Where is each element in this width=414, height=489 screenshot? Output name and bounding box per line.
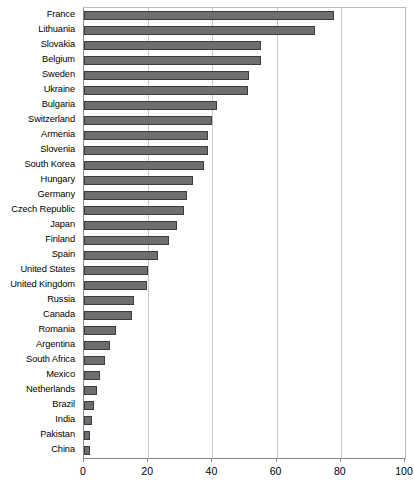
- bar-row: [84, 188, 405, 203]
- bar-row: [84, 233, 405, 248]
- category-label: Pakistan: [0, 427, 79, 442]
- bar: [84, 56, 261, 65]
- bar-row: [84, 398, 405, 413]
- bar-row: [84, 338, 405, 353]
- axis-tick-label: 20: [141, 465, 153, 477]
- bar-row: [84, 98, 405, 113]
- category-label: Ukraine: [0, 82, 79, 97]
- category-label: Slovakia: [0, 37, 79, 52]
- axis-tick: [404, 458, 405, 462]
- bar: [84, 281, 147, 290]
- bar-row: [84, 428, 405, 443]
- bar: [84, 161, 204, 170]
- bar: [84, 341, 110, 350]
- axis-tick: [340, 458, 341, 462]
- bar-row: [84, 203, 405, 218]
- bar-row: [84, 248, 405, 263]
- bar-row: [84, 38, 405, 53]
- bar-row: [84, 293, 405, 308]
- category-label: Canada: [0, 307, 79, 322]
- bar: [84, 191, 187, 200]
- bar: [84, 311, 132, 320]
- category-label: Romania: [0, 322, 79, 337]
- category-label: Hungary: [0, 172, 79, 187]
- category-label: Netherlands: [0, 382, 79, 397]
- plot-area: [83, 7, 406, 459]
- bar-row: [84, 383, 405, 398]
- bar: [84, 431, 90, 440]
- axis-tick: [276, 458, 277, 462]
- bar: [84, 176, 193, 185]
- bar: [84, 356, 105, 365]
- category-label: China: [0, 442, 79, 457]
- category-label: South Korea: [0, 157, 79, 172]
- bar-row: [84, 83, 405, 98]
- bar: [84, 206, 184, 215]
- bar-row: [84, 8, 405, 23]
- bar: [84, 386, 97, 395]
- bar: [84, 131, 208, 140]
- axis-tick-label: 40: [206, 465, 218, 477]
- bar: [84, 236, 169, 245]
- bar: [84, 401, 94, 410]
- bar-row: [84, 53, 405, 68]
- bar-row: [84, 368, 405, 383]
- category-label: Armenia: [0, 127, 79, 142]
- category-label: Finland: [0, 232, 79, 247]
- axis-tick-label: 60: [270, 465, 282, 477]
- bar: [84, 296, 134, 305]
- category-label: Spain: [0, 247, 79, 262]
- bar: [84, 371, 100, 380]
- bar: [84, 71, 249, 80]
- category-axis-labels: FranceLithuaniaSlovakiaBelgiumSwedenUkra…: [0, 7, 79, 457]
- bar-row: [84, 158, 405, 173]
- bar: [84, 266, 148, 275]
- bar: [84, 146, 208, 155]
- category-label: Russia: [0, 292, 79, 307]
- category-label: Slovenia: [0, 142, 79, 157]
- axis-tick: [147, 458, 148, 462]
- bar-row: [84, 218, 405, 233]
- bar: [84, 326, 116, 335]
- bar-row: [84, 113, 405, 128]
- category-label: Sweden: [0, 67, 79, 82]
- axis-tick: [211, 458, 212, 462]
- axis-tick: [83, 458, 84, 462]
- bar-row: [84, 353, 405, 368]
- bar-row: [84, 128, 405, 143]
- category-label: Mexico: [0, 367, 79, 382]
- bar: [84, 416, 92, 425]
- category-label: India: [0, 412, 79, 427]
- category-label: Belgium: [0, 52, 79, 67]
- bar: [84, 101, 217, 110]
- bar-row: [84, 173, 405, 188]
- category-label: Lithuania: [0, 22, 79, 37]
- bar-row: [84, 413, 405, 428]
- bar-row: [84, 323, 405, 338]
- bar-row: [84, 143, 405, 158]
- category-label: South Africa: [0, 352, 79, 367]
- bar-row: [84, 308, 405, 323]
- category-label: United Kingdom: [0, 277, 79, 292]
- category-label: Japan: [0, 217, 79, 232]
- bar-row: [84, 278, 405, 293]
- bar-series: [84, 8, 405, 458]
- category-label: United States: [0, 262, 79, 277]
- value-axis: 020406080100: [83, 458, 405, 488]
- axis-tick-label: 0: [80, 465, 86, 477]
- category-label: Argentina: [0, 337, 79, 352]
- bar: [84, 221, 177, 230]
- category-label: Brazil: [0, 397, 79, 412]
- bar: [84, 26, 315, 35]
- bar-row: [84, 68, 405, 83]
- bar: [84, 86, 248, 95]
- category-label: France: [0, 7, 79, 22]
- bar-row: [84, 263, 405, 278]
- bar-chart: FranceLithuaniaSlovakiaBelgiumSwedenUkra…: [0, 0, 414, 489]
- bar: [84, 446, 90, 455]
- bar-row: [84, 23, 405, 38]
- bar: [84, 116, 212, 125]
- bar: [84, 41, 261, 50]
- bar-row: [84, 443, 405, 458]
- axis-tick-label: 100: [395, 465, 413, 477]
